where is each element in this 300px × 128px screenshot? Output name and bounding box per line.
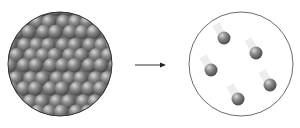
particle [87,2,101,16]
particle [121,38,135,52]
particle [133,15,147,29]
particle [67,58,81,72]
particle [140,25,154,39]
particle [115,71,129,85]
particle [3,15,17,29]
particle [113,25,127,39]
arrow-icon [135,63,166,68]
particle [107,105,121,119]
sparse-container [189,12,293,116]
particle [22,115,36,128]
particle [122,15,136,29]
particle [133,38,147,52]
particle [22,2,36,16]
particle [126,94,140,108]
particle [55,81,69,95]
particle [28,81,42,95]
particle [4,105,18,119]
particle [141,94,155,108]
particle [127,48,141,62]
particle [134,105,148,119]
particle [37,115,51,128]
particle [87,25,101,39]
particle [0,2,10,16]
particle [49,2,63,16]
particle [145,15,159,29]
particle [114,94,128,108]
particle [16,105,30,119]
particle [139,71,153,85]
particle [126,115,140,128]
particle [49,115,63,128]
particle [114,115,128,128]
particle [102,2,116,16]
particle [61,115,75,128]
particle [148,38,162,52]
particle [0,115,10,128]
particle [87,115,101,128]
particle [250,47,263,60]
particle [101,25,115,39]
particle [108,81,122,95]
particle [205,64,218,77]
particle [29,58,43,72]
particle [128,25,142,39]
particle [81,105,95,119]
diagram-canvas [0,0,300,128]
particle [107,15,121,29]
particle [120,58,134,72]
particle [140,115,154,128]
particle [2,58,16,72]
particle [264,79,277,92]
particle [126,2,140,16]
particle [127,71,141,85]
particle [102,115,116,128]
particle [218,32,231,45]
particle [232,93,245,106]
particle [37,2,51,16]
particle [135,81,149,95]
particle [113,48,127,62]
particle [100,94,114,108]
particle [54,105,68,119]
particle [0,94,11,108]
particle [11,94,25,108]
particle [120,81,134,95]
particle [119,105,133,119]
particle [114,2,128,16]
particle [139,48,153,62]
particle [0,25,12,39]
particle [10,2,24,16]
particle [96,105,110,119]
particle [109,58,123,72]
particle [146,105,160,119]
particle [75,2,89,16]
particle [48,25,62,39]
particle [146,81,160,95]
particle [140,2,154,16]
particle [75,115,89,128]
particle [94,58,108,72]
particle [10,115,24,128]
